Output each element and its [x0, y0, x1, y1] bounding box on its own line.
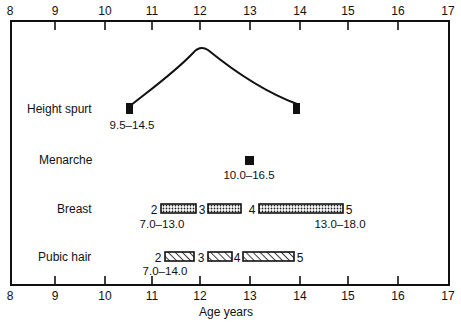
row-label-height-spurt: Height spurt — [27, 103, 92, 116]
pubic-stage-5: 5 — [297, 252, 304, 264]
pubic-stage-3: 3 — [198, 252, 205, 264]
pubic-bar-4-5 — [243, 252, 294, 261]
tick-label: 17 — [441, 5, 454, 17]
tick-label: 12 — [193, 290, 206, 302]
pubic-stage-2: 2 — [155, 252, 162, 264]
pubic-hair-range: 7.0–14.0 — [143, 265, 188, 277]
tick-label: 16 — [391, 5, 404, 17]
tick-label: 8 — [7, 290, 14, 302]
pubic-bar-3-4 — [208, 252, 232, 261]
tick-label: 10 — [98, 5, 111, 17]
breast-stage-3: 3 — [199, 204, 206, 216]
breast-stage-4: 4 — [249, 204, 256, 216]
bottom-ticks — [55, 276, 398, 285]
tick-label: 9 — [52, 290, 59, 302]
x-axis-label: Age years — [199, 305, 253, 319]
breast-bar-2-3 — [161, 204, 196, 213]
tick-label: 10 — [98, 290, 111, 302]
breast-range-right: 13.0–18.0 — [314, 218, 365, 230]
tick-label: 14 — [293, 5, 306, 17]
breast-bar-3-4 — [208, 204, 241, 213]
row-label-menarche: Menarche — [39, 154, 92, 167]
tick-label: 15 — [341, 5, 354, 17]
tick-label: 13 — [243, 5, 256, 17]
tick-label: 13 — [243, 290, 256, 302]
pubic-stage-4: 4 — [234, 252, 241, 264]
tick-label: 15 — [341, 290, 354, 302]
tick-label: 17 — [441, 290, 454, 302]
breast-bar-4-5 — [259, 204, 343, 213]
tick-label: 11 — [146, 290, 158, 302]
tick-label: 9 — [52, 5, 59, 17]
height-spurt-end-marker — [293, 103, 300, 114]
height-spurt-range: 9.5–14.5 — [110, 119, 155, 131]
tick-label: 11 — [146, 5, 158, 17]
breast-stage-5: 5 — [346, 204, 353, 216]
tick-label: 8 — [7, 5, 14, 17]
height-spurt-curve — [130, 48, 297, 106]
height-spurt-start-marker — [126, 103, 133, 114]
breast-range-left: 7.0–13.0 — [140, 218, 185, 230]
row-label-pubic-hair: Pubic hair — [38, 251, 91, 264]
top-ticks — [55, 21, 398, 30]
menarche-range: 10.0–16.5 — [223, 169, 274, 181]
pubic-bar-2-3 — [165, 252, 194, 261]
menarche-marker — [245, 156, 254, 165]
tick-label: 16 — [391, 290, 404, 302]
tick-label: 12 — [193, 5, 206, 17]
breast-stage-2: 2 — [151, 204, 158, 216]
tick-label: 14 — [293, 290, 306, 302]
row-label-breast: Breast — [57, 203, 92, 216]
